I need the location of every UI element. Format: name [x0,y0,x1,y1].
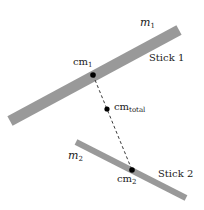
cm-total-point [104,106,109,111]
cm1-point [90,72,96,78]
diagram-canvas: m1 Stick 1 cm1 cmtotal m2 cm2 Stick 2 [0,0,204,210]
stick-1-label: Stick 1 [149,52,184,63]
cm2-label: cm2 [117,173,137,186]
stick-2-label: Stick 2 [158,168,193,179]
mass-label-2: m2 [68,149,83,163]
cm2-point [129,167,135,173]
mass-label-1: m1 [140,16,155,30]
cm1-label: cm1 [73,56,93,69]
cm-total-label: cmtotal [114,101,146,114]
